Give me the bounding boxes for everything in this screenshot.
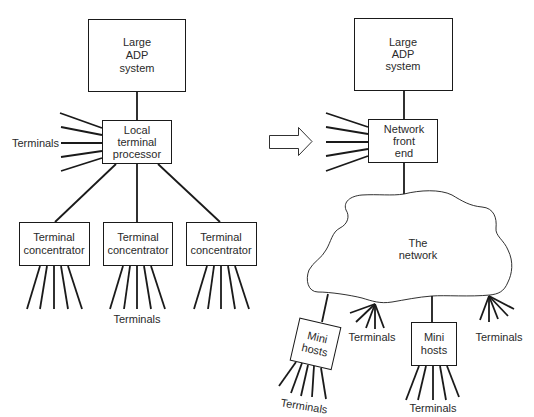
processor-label-2: terminal xyxy=(117,136,156,148)
mini-hosts-left-terminals-label: Terminals xyxy=(280,396,329,415)
concentrator-2-label-2: concentrator xyxy=(107,244,168,256)
cloud-terminal-lines-right xyxy=(480,296,514,322)
connector-line xyxy=(322,294,328,322)
front-end-terminal-lines xyxy=(326,113,368,171)
left-host-label-2: ADP xyxy=(126,49,149,61)
left-side-terminals-label: Terminals xyxy=(12,137,60,149)
mini-hosts-right-label-2: hosts xyxy=(421,344,448,356)
right-host-label-2: ADP xyxy=(392,48,415,60)
processor-to-concentrator-lines xyxy=(55,164,220,222)
cloud-terminal-lines-left xyxy=(350,304,384,329)
network-label-1: The xyxy=(409,237,428,249)
processor-label-1: Local xyxy=(124,124,150,136)
left-bottom-terminals-label: Terminals xyxy=(113,313,161,325)
concentrator-2-label-1: Terminal xyxy=(117,231,159,243)
concentrator-3-label-2: concentrator xyxy=(190,244,251,256)
network-label-2: network xyxy=(399,249,438,261)
processor-label-3: processor xyxy=(113,148,162,160)
right-host-label-3: system xyxy=(386,60,421,72)
concentrator-1-label-2: concentrator xyxy=(23,244,84,256)
network-diagram: Large ADP system Local terminal processo… xyxy=(0,0,534,417)
left-host-label-3: system xyxy=(120,62,155,74)
mini-hosts-right-label-1: Mini xyxy=(424,331,444,343)
front-end-label-1: Network xyxy=(384,123,425,135)
right-host-label-1: Large xyxy=(389,36,417,48)
front-end-label-3: end xyxy=(395,147,413,159)
mini-host-left-terminal-lines xyxy=(279,362,326,399)
side-terminal-lines xyxy=(60,113,102,171)
concentrator-3-label-1: Terminal xyxy=(200,231,242,243)
mini-host-right-terminal-lines xyxy=(406,366,459,400)
cloud-terminals-left-label: Terminals xyxy=(348,331,396,343)
right-arrow-outline-icon xyxy=(270,128,313,156)
concentrator-1-label-1: Terminal xyxy=(33,231,75,243)
front-end-label-2: front xyxy=(393,135,415,147)
cloud-terminals-right-label: Terminals xyxy=(475,331,523,343)
concentrator-terminal-lines xyxy=(27,266,249,309)
left-host-label-1: Large xyxy=(123,36,151,48)
mini-hosts-right-terminals-label: Terminals xyxy=(409,402,457,414)
